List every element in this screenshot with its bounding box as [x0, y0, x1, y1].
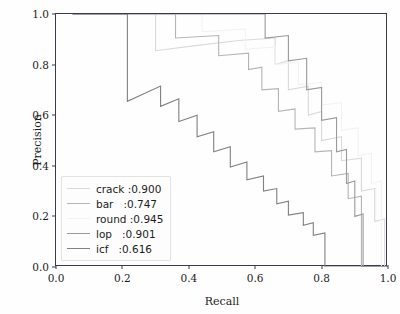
legend-entry: lop :0.901 [67, 226, 163, 241]
y-tick-mark [52, 14, 56, 15]
x-tick-mark [188, 265, 189, 269]
legend-entry: crack :0.900 [67, 181, 163, 196]
y-axis-label: Precision [31, 114, 44, 166]
legend-line-swatch [67, 188, 90, 189]
plot-axes-frame: Precision Recall 0.00.20.40.60.81.0 0.00… [55, 13, 387, 266]
legend-entry: bar :0.747 [67, 196, 163, 211]
legend-line-swatch [67, 203, 90, 204]
legend-entry-label: crack :0.900 [96, 183, 161, 195]
legend-entry-label: icf :0.616 [96, 243, 152, 255]
legend-entry-label: bar :0.747 [96, 198, 157, 210]
legend-entry: icf :0.616 [67, 241, 163, 256]
x-tick-mark [122, 265, 123, 269]
legend-line-swatch [67, 248, 90, 249]
legend-line-swatch [67, 218, 90, 219]
x-tick-label: 0.2 [114, 272, 131, 284]
y-tick-mark [52, 216, 56, 217]
legend-box: crack :0.900bar :0.747round :0.945lop :0… [61, 176, 171, 261]
x-tick-label: 1.0 [380, 272, 397, 284]
x-tick-label: 0.8 [313, 272, 330, 284]
x-tick-mark [56, 265, 57, 269]
y-tick-mark [52, 115, 56, 116]
y-tick-label: 0.0 [32, 261, 49, 273]
legend-line-swatch [67, 233, 90, 234]
y-tick-label: 0.6 [32, 109, 49, 121]
y-tick-label: 0.2 [32, 210, 49, 222]
x-tick-label: 0.4 [180, 272, 197, 284]
y-tick-label: 0.4 [32, 160, 49, 172]
y-tick-label: 0.8 [32, 59, 49, 71]
y-tick-label: 1.0 [32, 8, 49, 20]
precision-recall-figure: Precision Recall 0.00.20.40.60.81.0 0.00… [0, 0, 400, 314]
x-tick-label: 0.0 [48, 272, 65, 284]
x-tick-mark [388, 265, 389, 269]
legend-entry-label: lop :0.901 [96, 228, 156, 240]
legend-entry: round :0.945 [67, 211, 163, 226]
x-tick-mark [255, 265, 256, 269]
x-tick-label: 0.6 [247, 272, 264, 284]
y-tick-mark [52, 64, 56, 65]
y-tick-mark [52, 165, 56, 166]
legend-entry-label: round :0.945 [96, 213, 163, 225]
x-tick-mark [321, 265, 322, 269]
x-axis-label: Recall [56, 295, 388, 308]
